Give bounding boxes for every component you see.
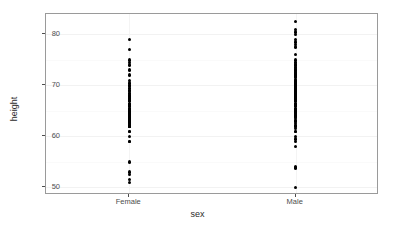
y-axis-title: height — [9, 69, 19, 149]
data-point — [128, 96, 131, 99]
data-point — [294, 76, 297, 79]
data-point — [294, 20, 297, 23]
data-point — [294, 140, 297, 143]
data-point — [128, 89, 131, 92]
chart-container: 50607080 height FemaleMale sex — [0, 0, 395, 228]
y-tick-label: 60 — [34, 131, 60, 140]
gridline-major — [46, 187, 377, 188]
data-point — [128, 68, 131, 71]
gridline-minor — [46, 111, 377, 112]
gridline-major — [46, 85, 377, 86]
data-point — [128, 63, 131, 66]
gridline-major — [46, 136, 377, 137]
data-point — [294, 81, 297, 84]
data-point — [128, 48, 131, 51]
x-axis-title: sex — [0, 209, 395, 219]
data-point — [128, 181, 131, 184]
data-point — [128, 140, 131, 143]
x-tick-label: Male — [287, 197, 303, 206]
y-tick-label: 80 — [34, 29, 60, 38]
data-point — [128, 173, 131, 176]
data-point — [294, 53, 297, 56]
x-tick-label: Female — [116, 197, 141, 206]
data-point — [128, 107, 131, 110]
data-point — [294, 33, 297, 36]
gridline-minor — [46, 60, 377, 61]
data-point — [128, 73, 131, 76]
data-point — [128, 130, 131, 133]
gridline-major — [46, 34, 377, 35]
y-tick-label: 50 — [34, 182, 60, 191]
data-point — [128, 112, 131, 115]
data-point — [128, 38, 131, 41]
data-point — [294, 130, 297, 133]
data-point — [294, 166, 297, 169]
data-point — [294, 145, 297, 148]
data-point — [294, 45, 297, 48]
y-tick-label: 70 — [34, 80, 60, 89]
data-point — [128, 84, 131, 87]
gridline-minor — [46, 162, 377, 163]
data-point — [128, 160, 131, 163]
data-point — [294, 186, 297, 189]
plot-panel — [45, 13, 378, 194]
data-point — [128, 102, 131, 105]
data-point — [128, 135, 131, 138]
